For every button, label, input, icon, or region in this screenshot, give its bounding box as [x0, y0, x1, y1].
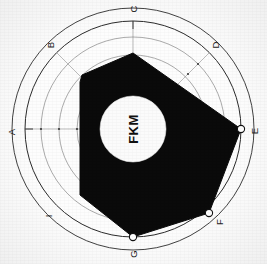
axis-label-d: D: [210, 41, 221, 48]
polar-chart-svg: FKM A B C D E F G I: [0, 0, 267, 264]
center-label-fkm: FKM: [126, 114, 141, 144]
axis-label-a: A: [6, 128, 17, 135]
polar-diagram-figure: FKM A B C D E F G I: [0, 0, 267, 264]
vertex-marker-e: [237, 125, 244, 132]
vertex-marker-f: [205, 209, 212, 216]
axis-label-b: B: [45, 42, 56, 48]
axis-label-g: G: [128, 250, 139, 257]
vertex-marker-g: [129, 233, 136, 240]
axis-label-i: I: [43, 215, 54, 218]
axis-label-e: E: [249, 128, 260, 134]
axis-label-f: F: [214, 219, 225, 225]
axis-label-c: C: [128, 5, 139, 12]
